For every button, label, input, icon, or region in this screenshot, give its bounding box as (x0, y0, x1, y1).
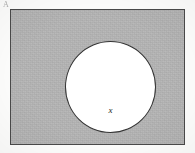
figure-canvas: A x (0, 0, 195, 153)
inner-white-circle: x (65, 41, 156, 133)
shaded-rectangle: x (10, 9, 185, 145)
circle-label-x: x (66, 105, 155, 115)
corner-scan-mark: A (3, 0, 14, 9)
